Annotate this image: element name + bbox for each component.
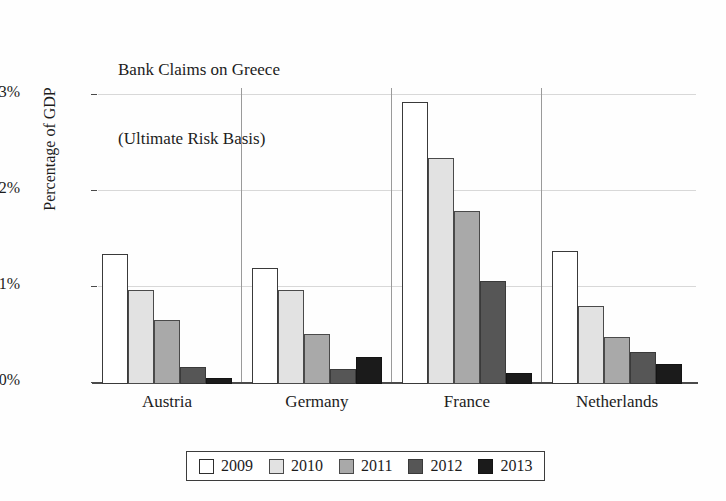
y-axis-tick-mark — [91, 190, 97, 191]
bar-france-2009 — [402, 102, 428, 384]
y-axis-tick-mark — [91, 286, 97, 287]
chart-figure: Bank Claims on Greece (Ultimate Risk Bas… — [0, 0, 726, 501]
legend-item-2013[interactable]: 2013 — [478, 457, 532, 475]
bar-germany-2009 — [252, 268, 278, 384]
bar-austria-2013 — [206, 378, 232, 384]
bar-netherlands-2012 — [630, 352, 656, 384]
gridline — [98, 190, 696, 191]
bar-germany-2013 — [356, 357, 382, 384]
bar-france-2013 — [506, 373, 532, 384]
y-axis-tick-label: 0% — [0, 371, 20, 389]
legend-item-2011[interactable]: 2011 — [339, 457, 392, 475]
bar-netherlands-2009 — [552, 251, 578, 384]
gridline — [98, 286, 696, 287]
bar-netherlands-2010 — [578, 306, 604, 384]
bar-austria-2009 — [102, 254, 128, 384]
bar-germany-2012 — [330, 369, 356, 384]
legend-item-2010[interactable]: 2010 — [269, 457, 323, 475]
y-axis-tick-label: 2% — [0, 179, 20, 197]
y-axis-tick-label: 1% — [0, 275, 20, 293]
chart-legend: 20092010201120122013 — [186, 451, 545, 481]
legend-swatch-2009 — [199, 459, 214, 474]
bar-austria-2012 — [180, 367, 206, 384]
category-label-austria: Austria — [82, 392, 252, 412]
category-label-germany: Germany — [232, 392, 402, 412]
y-axis-tick-label: 3% — [0, 83, 20, 101]
bar-austria-2010 — [128, 290, 154, 384]
legend-item-2009[interactable]: 2009 — [199, 457, 253, 475]
bar-netherlands-2011 — [604, 337, 630, 384]
legend-swatch-2013 — [478, 459, 493, 474]
bar-austria-2011 — [154, 320, 180, 384]
bar-france-2012 — [480, 281, 506, 384]
bar-france-2011 — [454, 211, 480, 384]
bar-netherlands-2013 — [656, 364, 682, 384]
legend-label-2009: 2009 — [221, 457, 253, 475]
plot-area — [98, 88, 696, 384]
legend-label-2012: 2012 — [430, 457, 462, 475]
category-label-france: France — [382, 392, 552, 412]
bar-germany-2010 — [278, 290, 304, 384]
category-label-netherlands: Netherlands — [532, 392, 702, 412]
y-axis-tick-mark — [91, 94, 97, 95]
y-axis-title: Percentage of GDP — [41, 19, 59, 279]
legend-label-2013: 2013 — [500, 457, 532, 475]
group-separator — [241, 88, 242, 382]
group-separator — [391, 88, 392, 382]
gridline — [98, 94, 696, 95]
group-separator — [541, 88, 542, 382]
legend-swatch-2010 — [269, 459, 284, 474]
legend-label-2011: 2011 — [361, 457, 392, 475]
bar-germany-2011 — [304, 334, 330, 384]
legend-swatch-2012 — [408, 459, 423, 474]
chart-title-line-1: Bank Claims on Greece — [118, 58, 280, 81]
legend-label-2010: 2010 — [291, 457, 323, 475]
legend-swatch-2011 — [339, 459, 354, 474]
legend-item-2012[interactable]: 2012 — [408, 457, 462, 475]
bar-france-2010 — [428, 158, 454, 384]
